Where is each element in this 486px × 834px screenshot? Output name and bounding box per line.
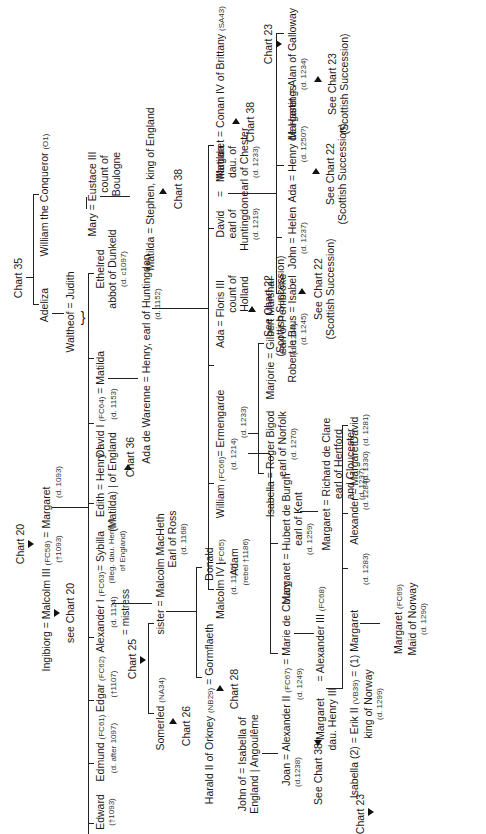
matilda-stephen: Matilda = Stephen, king of England <box>144 107 156 270</box>
chart-28-ref: Chart 28 <box>228 669 240 709</box>
somerled: Somerled (NA34) <box>154 677 168 750</box>
connector <box>152 308 208 309</box>
see-chart-23: See Chart 23(Scottish Succession) <box>326 34 350 135</box>
chart-23-ref-b: Chart 23 <box>354 794 366 834</box>
arrow-down-icon <box>28 540 34 548</box>
connector <box>52 313 64 314</box>
connector <box>112 603 152 604</box>
see-chart-22-hastings: See Chart 22(Scottish Succession) <box>324 124 348 225</box>
connector <box>342 426 343 514</box>
connector <box>248 433 258 434</box>
connector <box>196 677 202 678</box>
chart-38-ref: Chart 38 <box>172 169 184 209</box>
chart-35-ref: Chart 35 <box>12 258 24 298</box>
connector <box>248 453 270 454</box>
connector <box>276 293 282 294</box>
connector <box>326 688 342 689</box>
chart-36-ref: Chart 36 <box>124 437 136 477</box>
connector <box>360 623 380 624</box>
margaret-burgh: Margaret = Hubert de Burghearl of Kent(d… <box>280 473 315 604</box>
ada-de-warenne: Ada de Warenne = Henry, earl of Huntingd… <box>140 254 163 463</box>
connector <box>342 509 343 689</box>
william-i: William (FC66)= Ermengarde(d. 1214) <box>214 390 239 518</box>
erik-ii: Isabella (2) = Erik II (VB39) = (1) Marg… <box>348 610 385 798</box>
connector <box>270 454 271 654</box>
edmund: Edmund (FC61)(d. after 1097) <box>94 715 119 782</box>
connector <box>196 568 197 678</box>
connector <box>270 543 278 544</box>
margaret-1330-dates: (d. 1330) <box>360 451 371 483</box>
arrow-right-icon <box>169 718 177 724</box>
chart-25-ref: Chart 25 <box>126 639 138 679</box>
see-chart-22-brus: See Chart 22(Scottish Succession) <box>312 239 336 340</box>
chart-26-ref: Chart 26 <box>180 706 192 746</box>
chart-20-ref: Chart 20 <box>14 524 26 564</box>
connector <box>276 33 284 34</box>
william-the-conqueror: William the Conqueror (O1) <box>38 134 52 257</box>
mary-eustace: Mary = Eustace IIIcount ofBoulogne <box>86 152 122 237</box>
connector <box>196 567 202 568</box>
connector <box>100 196 130 197</box>
arrow-down-icon <box>140 656 146 664</box>
connector <box>342 568 348 569</box>
connector <box>276 237 282 238</box>
david-i: David I (FC64) = Matilda(d. 1153) <box>94 351 119 457</box>
alexander-iii: = Alexander III (FC68) <box>314 586 328 681</box>
maid-of-norway: Margaret (FC69)Maid of Norway(d. 1290) <box>392 583 429 656</box>
edgar: Edgar (FC62)(†1107) <box>94 656 119 712</box>
arrow-down-icon <box>54 609 60 617</box>
arrow-right-icon <box>248 306 256 312</box>
margaret-1283-dates: (d. 1283) <box>360 553 371 585</box>
malcolm-iii-dates: (†1093) <box>53 535 64 563</box>
connector <box>258 344 259 474</box>
ada-floris: Ada = Floris IIIcount ofHolland <box>214 275 250 352</box>
margaret-conan: Margaret = Conan IV of Brittany (SA43) <box>214 6 228 182</box>
sister-macheth: sister = Malcolm MacHethEarl of Ross(d. … <box>154 510 189 637</box>
connector <box>228 193 276 194</box>
malcolm-iv: Malcolm IV (FC65)(d. 1165) <box>214 539 239 619</box>
connector <box>294 633 314 634</box>
david-1281: David(d. 1281) <box>348 414 371 446</box>
connector <box>270 653 278 654</box>
connector <box>276 34 277 294</box>
margaret-henry-iii: Margaretdau. Henry III <box>314 687 338 750</box>
malcolm-iii: Ingibiorg = Malcolm III (FC58) = Margare… <box>40 487 54 672</box>
arrow-down-icon <box>368 808 374 816</box>
arrow-right-icon <box>312 168 320 174</box>
connector <box>33 195 34 305</box>
connector <box>300 511 318 512</box>
see-chart-20: see Chart 20 <box>64 583 76 643</box>
connector <box>342 425 348 426</box>
arrow-right-icon <box>159 188 167 194</box>
adeliza: Adeliza <box>38 288 50 322</box>
connector <box>148 624 149 714</box>
connector <box>208 365 214 366</box>
genealogy-chart: Chart 35 William the Conqueror (O1) Adel… <box>0 0 486 834</box>
arrow-right-icon <box>216 685 224 691</box>
brace: } <box>81 312 86 322</box>
chart-23-ref-a: Chart 23 <box>262 24 274 64</box>
arrow-down-icon <box>276 40 282 48</box>
connector <box>52 507 88 508</box>
see-chart-38: See Chart 38 <box>312 743 324 805</box>
connector <box>108 378 138 379</box>
edward: Edward(†1093) <box>94 794 117 830</box>
david-huntingdon: Davidearl ofHuntingdon(d. 1219) <box>214 197 261 251</box>
connector <box>166 611 196 612</box>
connector <box>86 197 87 209</box>
john-helen: John = Helen(d. 1237) <box>286 207 309 269</box>
arrow-right-icon <box>298 288 306 294</box>
john-of-england: John of = Isabella ofEngland | Angoulême <box>236 714 260 814</box>
chart-38-ref-b: Chart 38 <box>244 102 256 142</box>
connector <box>276 165 284 166</box>
harald-gormflaeth: Harald II of Orkney (NB29) = Gormflaeth <box>203 624 217 804</box>
margaret-dates: (d. 1093) <box>53 466 64 498</box>
ethelred: Ethelredabbot of Dunkeld(d. c1097) <box>94 229 129 308</box>
arrow-right-icon <box>314 76 322 82</box>
connector <box>262 753 278 754</box>
waltheof-judith: Waltheof = Judith <box>64 271 76 352</box>
margaret-galloway: Margaret = Alan of Galloway(d. 1234) <box>286 8 309 140</box>
alexander-ii: Joan = Alexander II (FC67) = Marie de Co… <box>280 582 305 786</box>
connector <box>208 146 209 590</box>
joan-dates: (d.1238) <box>292 757 303 787</box>
